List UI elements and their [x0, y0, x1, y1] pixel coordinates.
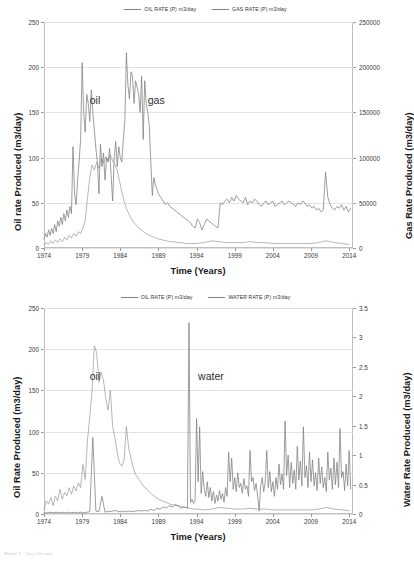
y-tick-mark-right [353, 426, 356, 427]
x-axis-title: Time (Years) [170, 266, 225, 276]
x-tick-mark [349, 248, 350, 251]
legend-item-oil-rate[interactable]: OIL RATE (P) m3/day [124, 6, 196, 12]
y-tick-label-right: 150000 [359, 109, 380, 116]
y-tick-mark-right [353, 485, 356, 486]
legend-label: OIL RATE (P) m3/day [144, 6, 196, 12]
y-tick-label-right: 2 [359, 393, 363, 400]
y-tick-label-right: 1.5 [359, 422, 368, 429]
y-tick-mark-left [41, 67, 44, 68]
y-tick-mark-left [41, 349, 44, 350]
legend-label: WATER RATE (P) m3/day [228, 294, 290, 300]
legend-item-gas-rate[interactable]: GAS RATE (P) m3/day [212, 6, 287, 12]
oil-water-chart: OIL RATE (P) m3/day WATER RATE (P) m3/da… [0, 286, 411, 554]
y-tick-mark-right [353, 514, 356, 515]
chart-legend-bottom: OIL RATE (P) m3/day WATER RATE (P) m3/da… [0, 294, 411, 300]
y-tick-mark-right [353, 337, 356, 338]
x-tick-mark [311, 514, 312, 517]
x-tick-label: 1994 [190, 252, 204, 259]
y-tick-label-left: 50 [32, 469, 39, 476]
y-tick-mark-left [41, 308, 44, 309]
x-tick-label: 1999 [228, 518, 242, 525]
y-tick-label-left: 0 [35, 245, 39, 252]
x-tick-label: 1989 [151, 252, 165, 259]
x-tick-mark [235, 248, 236, 251]
x-tick-mark [120, 248, 121, 251]
y-tick-label-right: 3 [359, 334, 363, 341]
y-tick-mark-left [41, 390, 44, 391]
x-tick-mark [197, 248, 198, 251]
y-tick-label-left: 100 [28, 154, 39, 161]
x-tick-label: 2009 [304, 518, 318, 525]
y-tick-label-right: 0.5 [359, 481, 368, 488]
x-tick-label: 1984 [113, 252, 127, 259]
annotation-label: oil [90, 94, 101, 106]
y-tick-mark-right [353, 367, 356, 368]
y-tick-mark-left [41, 22, 44, 23]
y-tick-label-left: 150 [28, 109, 39, 116]
y-tick-label-right: 50000 [359, 199, 377, 206]
annotation-label: oil [90, 370, 101, 382]
x-tick-mark [120, 514, 121, 517]
gridline [44, 248, 353, 249]
y-tick-label-right: 250000 [359, 19, 380, 26]
annotation-label: gas [148, 94, 165, 106]
y-tick-label-right: 200000 [359, 64, 380, 71]
y-tick-label-left: 50 [32, 199, 39, 206]
y-tick-label-right: 0 [359, 245, 363, 252]
y-tick-mark-left [41, 473, 44, 474]
x-tick-mark [82, 248, 83, 251]
y-tick-label-right: 3.5 [359, 305, 368, 312]
y-tick-mark-right [353, 67, 356, 68]
x-tick-mark [158, 514, 159, 517]
x-tick-label: 1984 [113, 518, 127, 525]
x-tick-mark [158, 248, 159, 251]
x-tick-label: 1974 [37, 252, 51, 259]
y-tick-mark-right [353, 203, 356, 204]
x-tick-label: 1994 [190, 518, 204, 525]
series-line-secondary [44, 53, 351, 239]
x-tick-label: 2014 [342, 252, 356, 259]
x-tick-mark [235, 514, 236, 517]
legend-line-icon [124, 9, 141, 10]
y-tick-label-left: 250 [28, 305, 39, 312]
x-tick-label: 1999 [228, 252, 242, 259]
x-tick-label: 1979 [75, 252, 89, 259]
x-tick-label: 1974 [37, 518, 51, 525]
legend-label: OIL RATE (P) m3/day [141, 294, 193, 300]
y-tick-label-right: 100000 [359, 154, 380, 161]
plot-area-oil-gas [44, 22, 353, 248]
legend-line-icon [212, 9, 229, 10]
figure-caption: Model 2 : Gas-Oil ratio [4, 551, 53, 556]
legend-label: GAS RATE (P) m3/day [232, 6, 287, 12]
y-tick-mark-left [41, 158, 44, 159]
oil-gas-chart: OIL RATE (P) m3/day GAS RATE (P) m3/day … [0, 0, 411, 280]
legend-line-icon [208, 297, 225, 298]
legend-item-water-rate[interactable]: WATER RATE (P) m3/day [208, 294, 290, 300]
legend-item-oil-rate[interactable]: OIL RATE (P) m3/day [121, 294, 193, 300]
series-line-primary [44, 155, 349, 245]
y-tick-mark-right [353, 308, 356, 309]
y-axis-title-right: Gas Rate Produced (m3/day) [404, 112, 414, 239]
x-tick-label: 1979 [75, 518, 89, 525]
y-axis-title-left: Oil rate Produced (m3/day) [13, 113, 23, 231]
y-tick-label-left: 250 [28, 19, 39, 26]
x-tick-label: 2009 [304, 252, 318, 259]
y-axis-title-left: Oil Rate Produced (m3/day) [12, 377, 22, 498]
x-tick-mark [82, 514, 83, 517]
series-line-secondary [44, 323, 351, 513]
legend-line-icon [121, 297, 138, 298]
y-tick-mark-left [41, 432, 44, 433]
y-tick-label-left: 100 [28, 428, 39, 435]
series-canvas [44, 22, 353, 248]
y-tick-label-right: 2.5 [359, 363, 368, 370]
y-tick-mark-right [353, 396, 356, 397]
gridline [44, 514, 353, 515]
y-tick-mark-right [353, 22, 356, 23]
y-tick-mark-right [353, 455, 356, 456]
y-tick-mark-right [353, 112, 356, 113]
x-tick-mark [197, 514, 198, 517]
y-tick-label-left: 200 [28, 346, 39, 353]
x-tick-mark [349, 514, 350, 517]
x-tick-label: 2004 [266, 252, 280, 259]
chart-legend-top: OIL RATE (P) m3/day GAS RATE (P) m3/day [0, 6, 411, 12]
